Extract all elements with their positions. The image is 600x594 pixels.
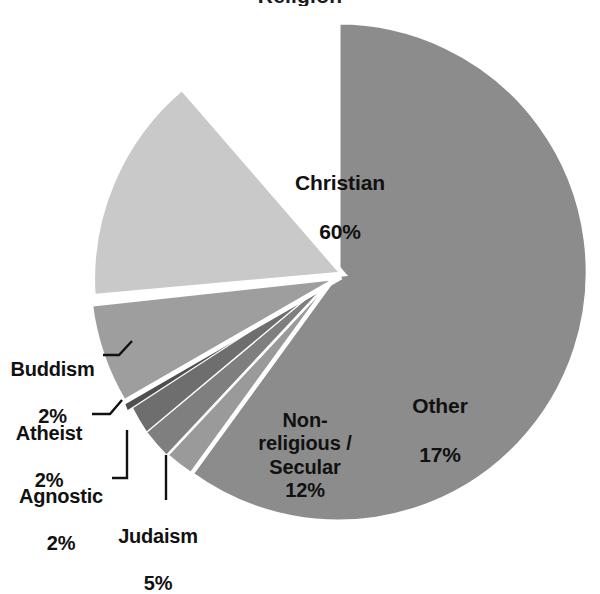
slice-label-agnostic-value: 2% (47, 532, 76, 554)
slice-label-christian: Christian 60% (240, 146, 440, 245)
slice-label-judaism: Judaism 5% (96, 501, 220, 594)
slice-label-other-name: Other (412, 394, 468, 417)
slice-label-christian-value: 60% (319, 220, 361, 243)
slice-label-non-religious-secular: Non- religious / Secular 12% (239, 385, 371, 527)
slice-label-judaism-name: Judaism (118, 525, 198, 547)
slice-label-judaism-value: 5% (144, 572, 173, 594)
slice-label-agnostic-name: Agnostic (19, 485, 103, 507)
slice-label-other-value: 17% (419, 443, 461, 466)
slice-label-non-religious-secular-name: Non- religious / Secular (258, 409, 351, 478)
slice-label-non-religious-secular-value: 12% (239, 479, 371, 503)
slice-label-buddism-name: Buddism (10, 358, 94, 380)
slice-label-christian-name: Christian (295, 171, 385, 194)
slice-label-atheist-name: Atheist (16, 422, 82, 444)
slice-label-other: Other 17% (378, 369, 502, 468)
